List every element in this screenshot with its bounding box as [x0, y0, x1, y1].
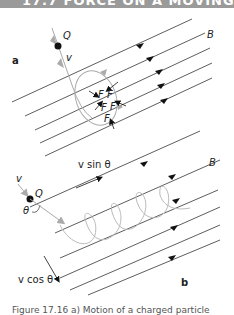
force-label: F	[101, 102, 107, 113]
charge-label-a: Q	[63, 30, 71, 41]
particle-path-a	[52, 28, 92, 118]
field-label-a: B	[207, 29, 214, 40]
panel-b-label: b	[181, 277, 188, 288]
incoming-velocity-b	[18, 184, 26, 194]
figure-caption: Figure 17.16 a) Motion of a charged part…	[12, 305, 234, 315]
v-sin-theta-label: v sin θ	[78, 159, 111, 170]
force-label: F	[104, 113, 110, 124]
charge-q-a	[55, 43, 62, 50]
panel-a-label: a	[12, 55, 19, 66]
field-lines-a	[12, 19, 212, 156]
force-label: F	[107, 89, 113, 100]
field-arrows-b	[140, 161, 180, 261]
field-label-b: B	[209, 157, 216, 168]
charge-label-b: Q	[35, 188, 43, 199]
v-cos-theta-label: v cos θ	[18, 274, 53, 285]
circular-orbit	[68, 65, 125, 131]
velocity-label-a: v	[66, 52, 73, 63]
force-label: F	[110, 101, 116, 112]
panel-a: Q v a B F F F F F	[12, 19, 214, 156]
v-sin-theta-arrow	[76, 178, 100, 188]
particle-path-b	[30, 199, 62, 222]
force-label: F	[98, 89, 104, 100]
angle-arc	[32, 205, 40, 212]
angle-label: θ	[23, 205, 29, 216]
velocity-label-b: v	[16, 173, 23, 184]
field-lines-b	[30, 131, 220, 295]
helical-path	[60, 186, 190, 244]
